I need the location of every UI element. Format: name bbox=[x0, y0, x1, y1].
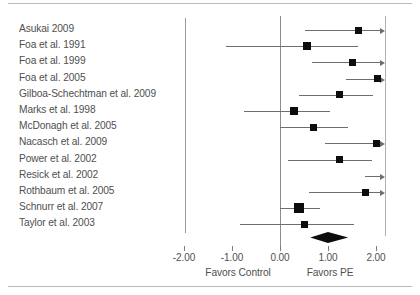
effect-marker[interactable] bbox=[310, 124, 317, 131]
x-axis-tick bbox=[184, 246, 185, 251]
plot-area: -2.00-1.000.001.002.00Favors ControlFavo… bbox=[0, 0, 420, 295]
effect-marker[interactable] bbox=[362, 189, 369, 196]
confidence-interval-line bbox=[365, 176, 381, 177]
effect-marker[interactable] bbox=[336, 91, 343, 98]
effect-marker[interactable] bbox=[303, 42, 311, 50]
ci-arrow-icon bbox=[380, 28, 385, 34]
confidence-interval-line bbox=[312, 62, 381, 63]
x-axis-tick bbox=[232, 246, 233, 251]
favors-pe-label: Favors PE bbox=[270, 267, 390, 278]
confidence-interval-line bbox=[226, 46, 358, 47]
ci-arrow-icon bbox=[380, 190, 385, 196]
ci-arrow-icon bbox=[380, 174, 385, 180]
null-effect-line bbox=[280, 16, 281, 248]
x-axis-tick-label: 2.00 bbox=[346, 252, 406, 263]
effect-marker[interactable] bbox=[355, 27, 362, 34]
forest-plot-figure: Asukai 2009Foa et al. 1991Foa et al. 199… bbox=[0, 0, 420, 295]
effect-marker[interactable] bbox=[294, 203, 304, 213]
ci-arrow-icon bbox=[380, 141, 385, 147]
ci-arrow-icon bbox=[380, 60, 385, 66]
effect-marker[interactable] bbox=[336, 156, 343, 163]
effect-marker[interactable] bbox=[290, 107, 298, 115]
x-axis-tick bbox=[328, 246, 329, 251]
confidence-interval-line bbox=[309, 192, 381, 193]
confidence-interval-line bbox=[288, 160, 372, 161]
confidence-interval-line bbox=[244, 111, 330, 112]
effect-marker[interactable] bbox=[373, 140, 380, 147]
effect-marker[interactable] bbox=[349, 59, 356, 66]
x-axis-tick bbox=[376, 246, 377, 251]
effect-marker[interactable] bbox=[374, 75, 381, 82]
confidence-interval-line bbox=[240, 224, 354, 225]
plot-right-boundary bbox=[385, 16, 386, 236]
confidence-interval-line bbox=[305, 30, 381, 31]
x-axis-tick bbox=[280, 246, 281, 251]
effect-marker[interactable] bbox=[301, 221, 308, 228]
summary-diamond bbox=[0, 0, 420, 295]
